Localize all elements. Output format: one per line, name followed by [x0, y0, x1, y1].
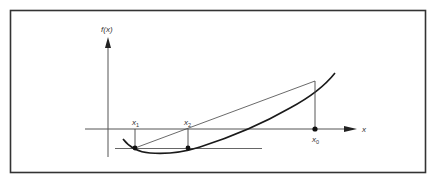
x-axis-label: x — [361, 125, 367, 134]
y-axis-label: f(x) — [101, 25, 113, 34]
x0-label: x0 — [311, 135, 319, 145]
x2-label: x2 — [183, 118, 191, 128]
x1-point — [133, 146, 138, 151]
y-axis-arrow-icon — [105, 37, 111, 48]
x1-label: x1 — [131, 118, 139, 128]
diagram-canvas: f(x) x x1 x2 x0 — [0, 0, 436, 182]
x0-point — [312, 126, 317, 131]
x-axis-arrow-icon — [344, 126, 357, 132]
x2-point — [186, 146, 191, 151]
